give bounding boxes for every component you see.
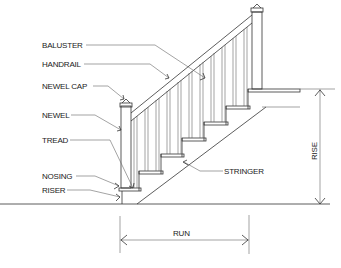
label-newel: NEWEL: [42, 111, 121, 131]
label-stringer: STRINGER: [183, 160, 264, 176]
newel-post-top: [251, 4, 263, 89]
label-handrail: HANDRAIL: [42, 60, 169, 79]
newel-post-bottom: [120, 99, 132, 188]
label-newel-cap: NEWEL CAP: [42, 82, 124, 100]
handrail: [131, 15, 252, 121]
run-dimension: RUN: [120, 215, 249, 254]
run-label: RUN: [173, 229, 190, 238]
staircase-diagram: BALUSTER HANDRAIL NEWEL CAP NEWEL TREAD …: [0, 0, 341, 268]
label-tread-text: TREAD: [42, 136, 69, 145]
steps: [119, 89, 300, 204]
stringer: [137, 107, 300, 204]
label-riser-text: RISER: [42, 186, 66, 195]
label-newel-text: NEWEL: [42, 111, 70, 120]
label-newel-cap-text: NEWEL CAP: [42, 82, 87, 91]
rise-label: RISE: [310, 142, 319, 160]
rise-dimension: RISE: [300, 89, 335, 204]
label-handrail-text: HANDRAIL: [42, 60, 82, 69]
label-stringer-text: STRINGER: [224, 167, 264, 176]
label-baluster-text: BALUSTER: [42, 41, 83, 50]
label-riser: RISER: [42, 186, 120, 201]
label-nosing-text: NOSING: [42, 172, 72, 181]
